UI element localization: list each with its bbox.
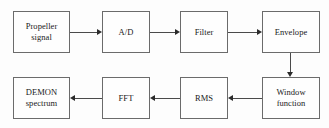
edge-fft-to-demon-spectrum-line bbox=[75, 98, 102, 99]
edge-filter-to-envelope-line bbox=[228, 32, 257, 33]
node-fft[interactable]: FFT bbox=[102, 77, 150, 119]
edge-filter-to-envelope-arrow-icon bbox=[257, 29, 262, 35]
edge-propeller-signal-to-ad-arrow-icon bbox=[97, 29, 102, 35]
edge-envelope-to-window-function-arrow-icon bbox=[287, 72, 293, 77]
node-rms[interactable]: RMS bbox=[180, 77, 228, 119]
edge-window-function-to-rms-line bbox=[233, 98, 262, 99]
node-envelope[interactable]: Envelope bbox=[262, 11, 320, 53]
edge-ad-to-filter-line bbox=[150, 32, 175, 33]
node-propeller-signal[interactable]: Propeller signal bbox=[13, 11, 70, 53]
node-window-function[interactable]: Window function bbox=[262, 77, 320, 119]
node-filter[interactable]: Filter bbox=[180, 11, 228, 53]
node-demon-spectrum[interactable]: DEMON spectrum bbox=[13, 77, 70, 119]
edge-fft-to-demon-spectrum-arrow-icon bbox=[70, 95, 75, 101]
node-ad[interactable]: A/D bbox=[102, 11, 150, 53]
edge-propeller-signal-to-ad-line bbox=[70, 32, 97, 33]
edge-rms-to-fft-line bbox=[155, 98, 180, 99]
edge-window-function-to-rms-arrow-icon bbox=[228, 95, 233, 101]
edge-ad-to-filter-arrow-icon bbox=[175, 29, 180, 35]
diagram-canvas: Propeller signal A/D Filter Envelope DEM… bbox=[0, 0, 329, 128]
edge-envelope-to-window-function-line bbox=[290, 53, 291, 72]
edge-rms-to-fft-arrow-icon bbox=[150, 95, 155, 101]
